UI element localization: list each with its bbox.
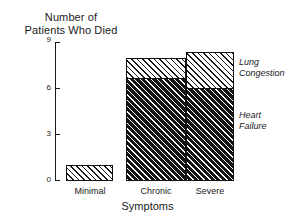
bar-segment-severe-heart-failure (186, 88, 234, 181)
y-axis-tick-label-9: 9 (35, 36, 51, 44)
y-axis-tick-label-0: 0 (35, 176, 51, 184)
bar-minimal (66, 165, 113, 181)
bar-segment-chronic-lung-congestion (126, 58, 186, 79)
y-axis-tick-label-6: 6 (35, 84, 51, 92)
y-axis-tick-9 (55, 42, 60, 43)
y-axis-line (55, 42, 56, 181)
bar-severe (186, 52, 234, 181)
bar-chart: Number of Patients Who Died 9 6 3 0 Mini… (0, 0, 296, 222)
bar-chronic (126, 58, 186, 181)
x-axis-label-severe: Severe (186, 186, 234, 196)
y-axis-tick-6 (55, 88, 60, 89)
series-label-heart-failure: Heart Failure (239, 110, 267, 132)
bar-segment-minimal-lung-congestion (66, 165, 113, 181)
bar-segment-chronic-heart-failure (126, 78, 186, 181)
x-axis-label-minimal: Minimal (60, 186, 120, 196)
y-axis-tick-3 (55, 134, 60, 135)
plot-area: 9 6 3 0 Minimal Chronic Severe Symptoms … (0, 0, 296, 222)
x-axis-label-chronic: Chronic (126, 186, 186, 196)
series-label-lung-congestion: Lung Congestion (239, 57, 285, 79)
bar-segment-severe-lung-congestion (186, 52, 234, 89)
y-axis-tick-label-3: 3 (35, 130, 51, 138)
y-axis-tick-0 (55, 180, 60, 181)
x-axis-title: Symptoms (55, 200, 240, 212)
